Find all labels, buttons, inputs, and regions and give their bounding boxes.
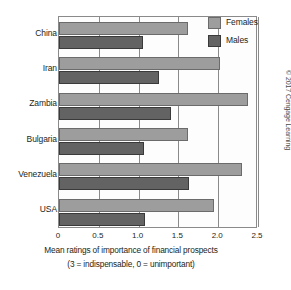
y-axis-label-iran: Iran (1, 63, 57, 73)
legend-label: Females (226, 17, 258, 27)
bar-usa-males (59, 213, 145, 226)
y-axis-label-china: China (1, 28, 57, 38)
bar-group (59, 194, 256, 229)
bar-group (59, 123, 256, 158)
bar-bulgaria-males (59, 142, 144, 155)
chart-legend: FemalesMales (208, 16, 280, 52)
x-tick-label: 1.0 (132, 231, 143, 240)
bar-zambia-females (59, 93, 248, 106)
legend-item-females: Females (208, 16, 280, 32)
x-tick-label: 0.5 (92, 231, 103, 240)
x-tick-label: 0 (56, 231, 60, 240)
bar-usa-females (59, 199, 214, 212)
copyright-credit: © 2017 Cengage Learning (285, 70, 291, 150)
bar-china-males (59, 36, 143, 49)
x-tick-label: 1.5 (172, 231, 183, 240)
bar-iran-males (59, 71, 159, 84)
bar-venezuela-females (59, 163, 242, 176)
y-axis-label-zambia: Zambia (1, 98, 57, 108)
legend-label: Males (226, 35, 248, 45)
x-tick-label: 2.5 (251, 231, 262, 240)
bar-china-females (59, 22, 188, 35)
bar-iran-females (59, 57, 220, 70)
legend-swatch-males (208, 35, 221, 47)
y-axis-label-venezuela: Venezuela (1, 169, 57, 179)
bar-zambia-males (59, 107, 171, 120)
bar-group (59, 158, 256, 193)
y-axis-label-bulgaria: Bulgaria (1, 134, 57, 144)
bar-chart-figure: ChinaIranZambiaBulgariaVenezuelaUSA 00.5… (0, 0, 291, 290)
x-axis-title: Mean ratings of importance of financial … (0, 245, 262, 255)
bar-group (59, 52, 256, 87)
x-tick-label: 2.0 (212, 231, 223, 240)
legend-swatch-females (208, 17, 221, 29)
y-axis-label-usa: USA (1, 204, 57, 214)
bar-group (59, 88, 256, 123)
legend-item-males: Males (208, 34, 280, 50)
bar-bulgaria-females (59, 128, 188, 141)
x-axis-subtitle: (3 = indispensable, 0 = unimportant) (0, 259, 262, 269)
bar-venezuela-males (59, 177, 189, 190)
